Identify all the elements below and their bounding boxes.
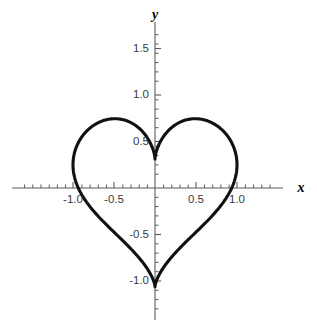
y-axis-label: y	[150, 7, 159, 22]
y-tick-label-05: 0.5	[133, 135, 149, 147]
y-tick-label-neg1: -1.0	[129, 274, 149, 286]
y-tick-label-15: 1.5	[133, 42, 149, 54]
y-tick-label-1: 1.0	[133, 88, 149, 100]
x-tick-label-05: 0.5	[188, 193, 204, 205]
x-axis-label: x	[297, 180, 305, 195]
plot-svg: -1.0 -0.5 0.5 1.0 1.5 1.0 0.5 -0.5 -1.0 …	[0, 0, 317, 333]
x-tick-label-1: 1.0	[229, 193, 245, 205]
y-tick-label-neg05: -0.5	[129, 228, 149, 240]
x-tick-label-neg1: -1.0	[63, 193, 83, 205]
x-tick-label-neg05: -0.5	[104, 193, 124, 205]
heart-curve-plot: -1.0 -0.5 0.5 1.0 1.5 1.0 0.5 -0.5 -1.0 …	[0, 0, 317, 333]
